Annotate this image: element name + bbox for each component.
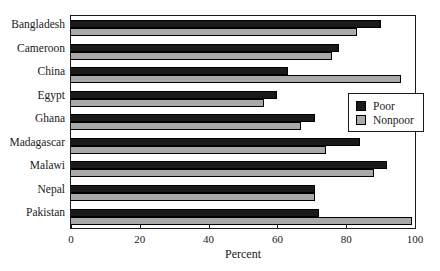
tick-mark-40 (209, 224, 210, 228)
bar-nonpoor-cameroon (71, 52, 332, 60)
category-label-egypt: Egypt (0, 89, 65, 101)
bar-nonpoor-nepal (71, 193, 315, 201)
bar-nonpoor-bangladesh (71, 28, 357, 36)
bar-nonpoor-ghana (71, 122, 301, 130)
bar-nonpoor-pakistan (71, 217, 412, 225)
bar-nonpoor-madagascar (71, 146, 326, 154)
bar-poor-bangladesh (71, 20, 381, 28)
bar-poor-pakistan (71, 209, 319, 217)
category-label-china: China (0, 65, 65, 77)
tick-label-40: 40 (189, 233, 229, 245)
country-row-cameroon (71, 40, 415, 64)
bar-nonpoor-malawi (71, 169, 374, 177)
bar-poor-china (71, 67, 288, 75)
bar-poor-egypt (71, 91, 277, 99)
country-row-pakistan (71, 205, 415, 229)
tick-mark-80 (346, 224, 347, 228)
country-row-madagascar (71, 134, 415, 158)
country-row-china (71, 63, 415, 87)
tick-label-60: 60 (257, 233, 297, 245)
tick-mark-100 (415, 224, 416, 228)
tick-label-80: 80 (326, 233, 366, 245)
bar-poor-ghana (71, 114, 315, 122)
country-row-malawi (71, 157, 415, 181)
legend-item-nonpoor: Nonpoor (356, 113, 414, 126)
category-label-ghana: Ghana (0, 112, 65, 124)
grouped-bar-chart: BangladeshCameroonChinaEgyptGhanaMadagas… (0, 0, 440, 271)
bar-nonpoor-egypt (71, 99, 264, 107)
category-label-cameroon: Cameroon (0, 42, 65, 54)
category-label-bangladesh: Bangladesh (0, 18, 65, 30)
category-label-nepal: Nepal (0, 183, 65, 195)
tick-mark-20 (140, 224, 141, 228)
category-label-pakistan: Pakistan (0, 206, 65, 218)
x-axis-title: Percent (70, 247, 416, 262)
bar-poor-madagascar (71, 138, 360, 146)
bar-nonpoor-china (71, 75, 401, 83)
legend: Poor Nonpoor (348, 93, 424, 132)
country-row-nepal (71, 181, 415, 205)
category-label-malawi: Malawi (0, 159, 65, 171)
nonpoor-swatch-icon (356, 115, 366, 125)
legend-label-poor: Poor (373, 100, 395, 112)
bar-poor-cameroon (71, 44, 339, 52)
category-label-madagascar: Madagascar (0, 136, 65, 148)
bar-poor-malawi (71, 161, 387, 169)
tick-label-100: 100 (395, 233, 435, 245)
bar-poor-nepal (71, 185, 315, 193)
poor-swatch-icon (356, 101, 366, 111)
tick-mark-0 (71, 224, 72, 228)
legend-item-poor: Poor (356, 99, 414, 112)
country-row-bangladesh (71, 16, 415, 40)
legend-label-nonpoor: Nonpoor (373, 114, 414, 126)
tick-label-20: 20 (120, 233, 160, 245)
tick-label-0: 0 (51, 233, 91, 245)
tick-mark-60 (277, 224, 278, 228)
